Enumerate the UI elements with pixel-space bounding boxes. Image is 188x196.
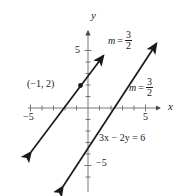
y-tick-label-5: 5 bbox=[75, 45, 80, 55]
coordinate-plane-svg bbox=[0, 0, 188, 196]
x-tick-label-5: 5 bbox=[143, 112, 148, 122]
y-tick-label-negative-5: −5 bbox=[96, 158, 107, 168]
y-axis bbox=[85, 31, 92, 192]
slope-label-top-fraction: 3 2 bbox=[125, 30, 132, 51]
slope-label-top-variable: m bbox=[108, 36, 115, 46]
slope-label-top: m = 3 2 bbox=[108, 30, 132, 51]
x-axis-label: x bbox=[168, 101, 173, 112]
slope-label-top-denominator: 2 bbox=[125, 41, 132, 51]
slope-label-top-numerator: 3 bbox=[125, 30, 132, 40]
slope-label-right-numerator: 3 bbox=[146, 77, 153, 87]
slope-label-right: m = 3 2 bbox=[129, 77, 153, 98]
plotted-point-marker bbox=[78, 83, 83, 88]
x-tick-label-negative-5: −5 bbox=[23, 112, 34, 122]
x-axis bbox=[28, 105, 160, 112]
slope-label-right-fraction: 3 2 bbox=[146, 77, 153, 98]
line-equation-label: 3x − 2y = 6 bbox=[99, 133, 145, 143]
slope-label-right-equals: = bbox=[138, 83, 144, 93]
point-coordinate-label: (−1, 2) bbox=[27, 79, 54, 89]
slope-label-right-denominator: 2 bbox=[146, 88, 153, 98]
slope-label-top-equals: = bbox=[117, 36, 123, 46]
slope-label-right-variable: m bbox=[129, 83, 136, 93]
y-axis-label: y bbox=[91, 10, 96, 21]
graph-figure: x y −5 5 5 −5 (−1, 2) 3x − 2y = 6 m = 3 … bbox=[0, 0, 188, 196]
line-through-point bbox=[31, 56, 104, 153]
